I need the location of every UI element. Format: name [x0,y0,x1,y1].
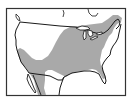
range-map [0,0,130,100]
lake-michigan [83,31,86,40]
lake-ontario [97,32,102,35]
